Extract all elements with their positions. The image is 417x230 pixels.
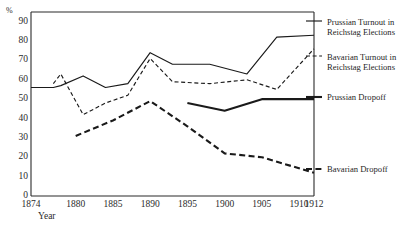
series-line-bavarian-dropoff [76,101,314,173]
legend-label-prussian-turnout: Prussian Turnout in Reichstag Elections [327,17,395,37]
series-line-prussian-dropoff [187,99,314,111]
legend-label-prussian-dropoff: Prussian Dropoff [327,92,386,102]
chart-figure: % 9080706050403020100 187418801885189018… [0,0,417,230]
series-line-bavarian-turnout-in-reichstag-elections [53,49,314,115]
legend-label-bavarian-turnout: Bavarian Turnout in Reichstag Elections [327,52,396,72]
legend-label-bavarian-dropoff: Bavarian Dropoff [327,164,388,174]
series-line-prussian-turnout-in-reichstag-elections [31,35,314,87]
